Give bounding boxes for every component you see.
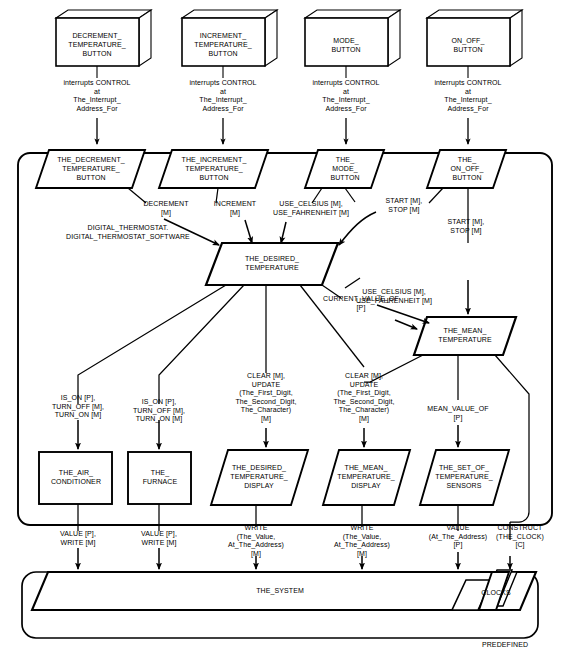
flow-label-is-on-furnace: IS_ON [P], TURN_OFF [M], TURN_ON [M] [114, 398, 204, 424]
interrupt-label-increment: interrupts CONTROL at The_Interrupt_ Add… [158, 79, 288, 113]
device-label-mode-button: MODE_ BUTTON [291, 36, 401, 54]
flow-label-clear-update-mean: CLEAR [M], UPDATE (The_First_Digit, The_… [314, 372, 414, 424]
device-label-decrement-temperature-button: DECREMENT_ TEMPERATURE_ BUTTON [42, 31, 152, 58]
flow-label-clear-update-desired: CLEAR [M], UPDATE (The_First_Digit, The_… [216, 372, 316, 424]
flow-label-value-write-air-conditioner: VALUE [P], WRITE [M] [33, 530, 123, 547]
object-label-the-desired-temperature: THE_DESIRED_ TEMPERATURE [207, 254, 337, 272]
interrupt-label-mode: interrupts CONTROL at The_Interrupt_ Add… [281, 79, 411, 113]
interrupt-label-decrement: interrupts CONTROL at The_Interrupt_ Add… [32, 79, 162, 113]
flow-label-start-stop-on-off: START [M], STOP [M] [426, 218, 506, 235]
object-label-clocks: CLOCKS [466, 588, 526, 597]
object-label-the-desired-temperature-display: THE_DESIRED_ TEMPERATURE_ DISPLAY [204, 463, 314, 490]
device-label-on-off-button: ON_OFF_ BUTTON [413, 36, 523, 54]
device-label-increment-temperature-button: INCREMENT_ TEMPERATURE_ BUTTON [168, 31, 278, 58]
object-label-the-mean-temperature-display: THE_MEAN_ TEMPERATURE_ DISPLAY [311, 463, 421, 490]
flow-label-start-stop-mode: START [M], STOP [M] [364, 197, 444, 214]
flow-label-write-desired-display: WRITE (The_Value, At_The_Address) [M] [201, 524, 311, 558]
object-label-the-furnace: THE_ FURNACE [115, 468, 205, 486]
flow-label-mean-value-of: MEAN_VALUE_OF [P] [408, 405, 508, 422]
flow-label-value-write-furnace: VALUE [P], WRITE [M] [114, 530, 204, 547]
object-label-the-decrement-temperature-button: THE_DECREMENT_ TEMPERATURE_ BUTTON [31, 155, 151, 182]
flow-label-construct-the-clock: CONSTRUCT (THE_CLOCK) [C] [470, 524, 570, 550]
object-label-the-air-conditioner: THE_AIR_ CONDITIONER [26, 468, 126, 486]
subsystem-label: DIGITAL_THERMOSTAT. DIGITAL_THERMOSTAT_S… [28, 224, 228, 241]
flow-label-is-on-air-conditioner: IS_ON [P], TURN_OFF [M], TURN_ON [M] [33, 394, 123, 420]
object-label-the-mean-temperature: THE_MEAN_ TEMPERATURE [405, 326, 525, 344]
flow-label-current-value-of: CURRENT_VALUE_OF [P] [306, 295, 416, 312]
diagram-canvas: DECREMENT_ TEMPERATURE_ BUTTON INCREMENT… [0, 0, 571, 672]
object-label-the-on-off-button: THE_ ON_OFF_ BUTTON [417, 155, 517, 182]
flow-label-write-mean-display: WRITE (The_Value, At_The_Address) [M] [307, 524, 417, 558]
flow-label-use-celsius-fahrenheit-top: USE_CELSIUS [M], USE_FAHRENHEIT [M] [256, 200, 366, 217]
object-label-the-increment-temperature-button: THE_INCREMENT_ TEMPERATURE_ BUTTON [154, 155, 274, 182]
object-label-the-set-of-temperature-sensors: THE_SET_OF_ TEMPERATURE_ SENSORS [409, 463, 519, 490]
predefined-label: PREDEFINED [460, 640, 550, 649]
object-label-the-system: THE_SYSTEM [220, 586, 340, 595]
object-label-the-mode-button: THE_ MODE_ BUTTON [295, 155, 395, 182]
flow-label-decrement: DECREMENT [M] [126, 200, 206, 217]
interrupt-label-on-off: interrupts CONTROL at The_Interrupt_ Add… [403, 79, 533, 113]
